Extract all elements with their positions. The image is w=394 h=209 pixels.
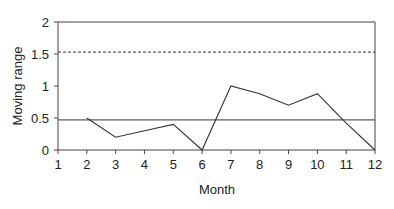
x-tick-label: 5	[170, 157, 177, 172]
reference-lines	[58, 52, 375, 120]
data-series	[87, 86, 375, 150]
x-tick-label: 12	[368, 157, 382, 172]
y-tick-label: 1	[42, 79, 49, 94]
y-axis-label: Moving range	[10, 47, 25, 126]
x-tick-label: 2	[83, 157, 90, 172]
x-tick-label: 10	[310, 157, 324, 172]
y-tick-label: 0	[42, 143, 49, 158]
x-tick-label: 3	[112, 157, 119, 172]
moving-range-series-line	[87, 86, 375, 150]
x-axis-ticks: 123456789101112	[54, 150, 382, 172]
y-axis-ticks: 00.511.52	[31, 15, 58, 158]
x-tick-label: 1	[54, 157, 61, 172]
y-tick-label: 0.5	[31, 111, 49, 126]
x-axis-label: Month	[199, 182, 235, 197]
x-tick-label: 7	[227, 157, 234, 172]
x-tick-label: 11	[339, 157, 353, 172]
x-tick-label: 8	[256, 157, 263, 172]
moving-range-chart: 00.511.52 123456789101112 Month Moving r…	[0, 0, 394, 209]
x-tick-label: 9	[285, 157, 292, 172]
y-tick-label: 2	[42, 15, 49, 30]
x-tick-label: 4	[141, 157, 148, 172]
x-tick-label: 6	[198, 157, 205, 172]
y-tick-label: 1.5	[31, 47, 49, 62]
